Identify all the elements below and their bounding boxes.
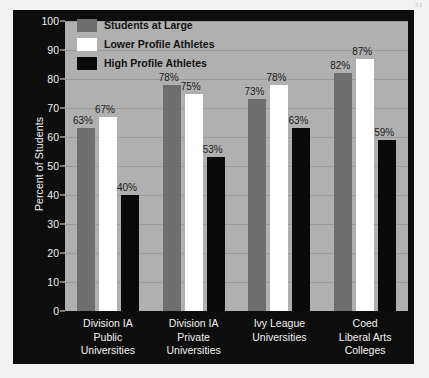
y-tick-label: 80 [25, 74, 59, 85]
legend-item: High Profile Athletes [77, 54, 277, 72]
bar-value-label: 75% [181, 82, 201, 92]
x-category-line: Universities [237, 331, 323, 345]
legend-label: Students at Large [104, 19, 193, 31]
y-tick-label: 30 [25, 219, 59, 230]
y-tick-label: 90 [25, 45, 59, 56]
x-category-line: Colleges [322, 344, 408, 358]
x-category-line: Ivy League [237, 317, 323, 331]
bar [292, 128, 310, 311]
bar-value-label: 63% [73, 116, 93, 126]
bar-value-label: 78% [159, 73, 179, 83]
x-category-line: Division IA [65, 317, 151, 331]
chart-panel: Percent of Students 01020304050607080901… [13, 10, 414, 364]
chart-legend: Students at LargeLower Profile AthletesH… [77, 16, 277, 73]
bar-value-label: 53% [203, 145, 223, 155]
bar [185, 94, 203, 312]
x-category-line: Liberal Arts [322, 331, 408, 345]
x-category-line: Division IA [151, 317, 237, 331]
bar-value-label: 82% [330, 61, 350, 71]
bar-value-label: 59% [374, 128, 394, 138]
chart-figure: 51 Percent of Students 01020304050607080… [0, 0, 429, 378]
x-category-line: Private [151, 331, 237, 345]
bar [378, 140, 396, 311]
y-tick-label: 100 [25, 16, 59, 27]
bar [270, 85, 288, 311]
bar [356, 59, 374, 311]
x-category-label: CoedLiberal ArtsColleges [322, 315, 408, 363]
bar [334, 73, 352, 311]
x-axis-categories: Division IAPublicUniversitiesDivision IA… [65, 315, 408, 363]
bar-value-label: 87% [352, 47, 372, 57]
y-tick-label: 10 [25, 277, 59, 288]
x-category-line: Universities [65, 344, 151, 358]
bar [121, 195, 139, 311]
x-category-label: Division IAPublicUniversities [65, 315, 151, 363]
bar [99, 117, 117, 311]
legend-swatch [77, 19, 97, 32]
bar [207, 157, 225, 311]
x-category-line: Coed [322, 317, 408, 331]
x-category-label: Division IAPrivateUniversities [151, 315, 237, 363]
legend-item: Lower Profile Athletes [77, 35, 277, 53]
legend-label: High Profile Athletes [104, 57, 207, 69]
page-number: 51 [415, 1, 423, 9]
bar-value-label: 73% [244, 87, 264, 97]
bar-value-label: 40% [117, 183, 137, 193]
legend-item: Students at Large [77, 16, 277, 34]
x-category-label: Ivy LeagueUniversities [237, 315, 323, 363]
legend-label: Lower Profile Athletes [104, 38, 214, 50]
y-tick-label: 40 [25, 190, 59, 201]
bar [77, 128, 95, 311]
y-tick-label: 60 [25, 132, 59, 143]
x-category-line: Public [65, 331, 151, 345]
x-category-line: Universities [151, 344, 237, 358]
bar-value-label: 63% [288, 116, 308, 126]
y-tick-label: 20 [25, 248, 59, 259]
bar [248, 99, 266, 311]
bar-value-label: 78% [266, 73, 286, 83]
legend-swatch [77, 38, 97, 51]
y-tick-label: 50 [25, 161, 59, 172]
y-tick-label: 0 [25, 306, 59, 317]
y-tick-label: 70 [25, 103, 59, 114]
bar [163, 85, 181, 311]
legend-swatch [77, 57, 97, 70]
bar-value-label: 67% [95, 105, 115, 115]
